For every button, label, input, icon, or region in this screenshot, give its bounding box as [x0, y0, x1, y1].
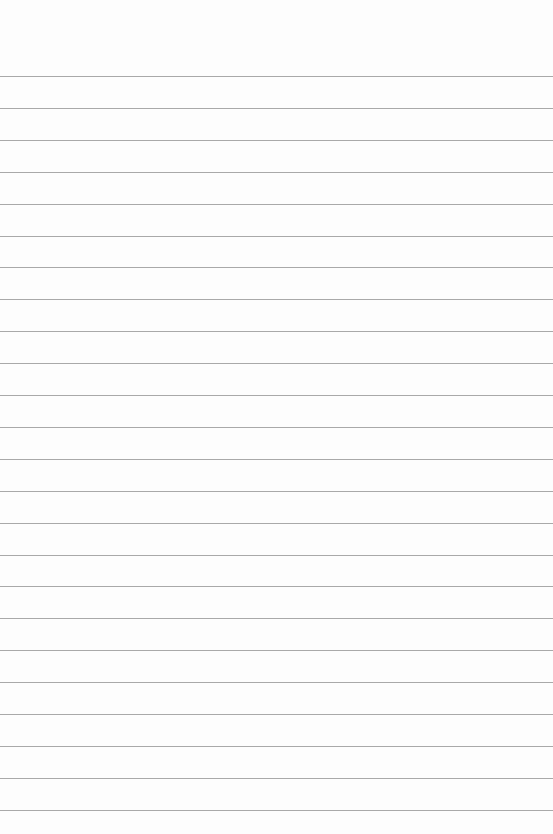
ruled-line	[0, 140, 553, 141]
ruled-line	[0, 682, 553, 683]
ruled-line	[0, 299, 553, 300]
ruled-line	[0, 267, 553, 268]
ruled-line	[0, 491, 553, 492]
ruled-line	[0, 618, 553, 619]
ruled-line	[0, 555, 553, 556]
ruled-line	[0, 172, 553, 173]
ruled-line	[0, 76, 553, 77]
ruled-line	[0, 236, 553, 237]
ruled-line	[0, 650, 553, 651]
ruled-line	[0, 778, 553, 779]
ruled-line	[0, 108, 553, 109]
ruled-line	[0, 523, 553, 524]
ruled-line	[0, 586, 553, 587]
ruled-line	[0, 331, 553, 332]
ruled-line	[0, 395, 553, 396]
ruled-line	[0, 714, 553, 715]
ruled-line	[0, 810, 553, 811]
ruled-line	[0, 363, 553, 364]
ruled-line	[0, 459, 553, 460]
ruled-line	[0, 746, 553, 747]
ruled-line	[0, 427, 553, 428]
ruled-line	[0, 204, 553, 205]
